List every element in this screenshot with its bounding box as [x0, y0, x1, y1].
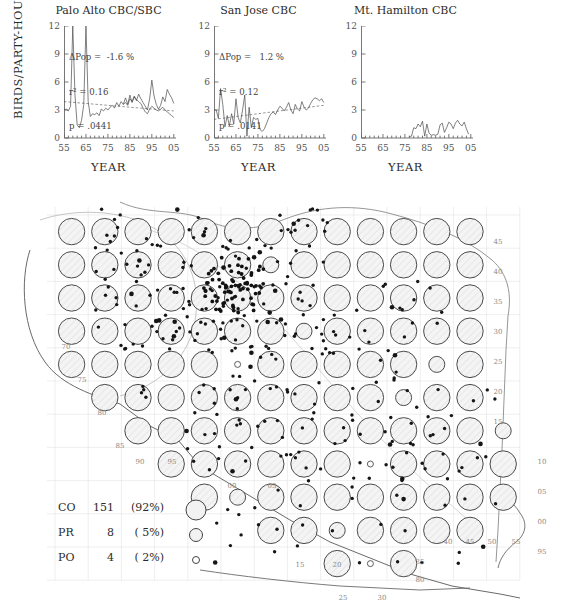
observation-dot	[94, 308, 97, 311]
observation-dot	[245, 281, 249, 285]
atlas-block-circle-co	[125, 418, 151, 444]
y-tick-label: 3	[54, 106, 60, 115]
x-tick-label: 95	[146, 144, 157, 153]
observation-dot	[296, 544, 299, 547]
observation-dot	[263, 244, 266, 247]
map-grid-label: 05	[538, 488, 547, 496]
atlas-block-circle-co	[324, 351, 350, 377]
observation-dot	[275, 321, 278, 324]
atlas-block-circle-pr	[230, 489, 246, 505]
observation-dot	[156, 244, 159, 247]
observation-dot	[125, 263, 128, 266]
observation-dot	[302, 313, 305, 316]
observation-dot	[281, 436, 284, 439]
atlas-block-circle-co	[424, 252, 450, 278]
map-grid-label: 85	[116, 442, 125, 450]
observation-dot	[270, 246, 273, 249]
observation-dot	[169, 287, 172, 290]
observation-dot	[300, 299, 303, 302]
atlas-block-circle-co	[490, 484, 516, 510]
observation-dot	[375, 381, 378, 384]
observation-dot	[223, 290, 227, 294]
observation-dot	[411, 443, 414, 446]
observation-dot	[213, 402, 216, 405]
chart-palo-alto: Palo Alto CBC/SBC 036912556575859505 ΔPo…	[36, 0, 181, 190]
observation-dot	[202, 286, 206, 290]
observation-dot	[211, 289, 214, 292]
observation-dot	[159, 244, 162, 247]
observation-dot	[104, 278, 107, 281]
observation-dot	[351, 419, 354, 422]
observation-dot	[276, 260, 279, 263]
observation-dot	[217, 278, 221, 282]
observation-dot	[270, 353, 273, 356]
observation-dot	[106, 248, 109, 251]
atlas-block-circle-co	[357, 484, 383, 510]
observation-dot	[322, 260, 325, 263]
atlas-block-circle-co	[158, 351, 184, 377]
observation-dot	[258, 250, 263, 255]
observation-dot	[379, 523, 382, 526]
observation-dot	[168, 347, 171, 350]
observation-dot	[247, 257, 251, 261]
observation-dot	[188, 303, 191, 306]
observation-dot	[249, 283, 253, 287]
observation-dot	[285, 388, 288, 391]
atlas-block-circle-po	[367, 461, 373, 467]
atlas-block-circle-co	[58, 318, 84, 344]
observation-dot	[457, 562, 460, 565]
observation-dot	[213, 432, 216, 435]
observation-dot	[257, 291, 261, 295]
observation-dot	[236, 263, 240, 267]
atlas-block-circle-co	[357, 351, 383, 377]
observation-dot	[120, 251, 123, 254]
observation-dot	[284, 282, 287, 285]
observation-dot	[249, 296, 253, 300]
observation-dot	[248, 246, 251, 249]
observation-dot	[97, 325, 100, 328]
observation-dot	[234, 397, 239, 402]
atlas-block-circle-co	[224, 218, 250, 244]
observation-dot	[112, 268, 115, 271]
observation-dot	[248, 365, 253, 370]
observation-dot	[221, 302, 225, 306]
map-grid-label: 95	[538, 548, 547, 556]
observation-dot	[355, 309, 358, 312]
observation-dot	[342, 426, 345, 429]
observation-dot	[406, 389, 409, 392]
observation-dot	[175, 330, 178, 333]
observation-dot	[328, 351, 331, 354]
atlas-block-circle-co	[424, 285, 450, 311]
legend-code: PO	[58, 551, 84, 564]
map-grid-label: 55	[512, 538, 521, 546]
observation-dot	[228, 264, 232, 268]
p-value-text: p = .0141	[219, 121, 284, 133]
observation-dot	[391, 466, 394, 469]
observation-dot	[443, 504, 446, 507]
atlas-block-circle-co	[58, 285, 84, 311]
observation-dot	[446, 477, 449, 480]
observation-dot	[221, 321, 224, 324]
atlas-block-circle-co	[324, 285, 350, 311]
observation-dot	[132, 342, 135, 345]
observation-dot	[109, 240, 112, 243]
observation-dot	[306, 224, 309, 227]
observation-dot	[218, 285, 221, 288]
legend-count: 4	[88, 551, 114, 564]
charts-row: BIRDS/PARTY-HOUR Palo Alto CBC/SBC 03691…	[0, 0, 565, 190]
observation-dot	[188, 228, 191, 231]
observation-dot	[241, 287, 245, 291]
chart-title: Palo Alto CBC/SBC	[36, 4, 181, 17]
atlas-block-circle-co	[158, 218, 184, 244]
atlas-block-circle-co	[291, 451, 317, 477]
atlas-block-circle-co	[258, 318, 284, 344]
observation-dot	[317, 381, 320, 384]
observation-dot	[184, 429, 189, 434]
observation-dot	[350, 485, 353, 488]
legend-symbol-medium-circle	[176, 523, 216, 547]
observation-dot	[273, 289, 278, 294]
observation-dot	[324, 347, 327, 350]
observation-dot	[230, 297, 234, 301]
observation-dot	[197, 391, 200, 394]
legend-code: CO	[58, 501, 84, 514]
